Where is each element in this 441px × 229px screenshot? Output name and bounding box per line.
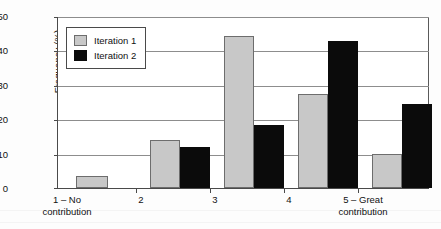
bar-iteration-1 bbox=[224, 36, 254, 188]
y-tick-mark bbox=[54, 120, 58, 121]
bar-group bbox=[140, 17, 210, 188]
bar-iteration-1 bbox=[298, 94, 328, 188]
y-tick-mark bbox=[54, 155, 58, 156]
bar-iteration-2 bbox=[180, 147, 210, 188]
bar-group bbox=[362, 17, 432, 188]
y-tick-label: 10 bbox=[0, 150, 8, 160]
y-tick-label: 40 bbox=[0, 46, 8, 56]
bar-iteration-1 bbox=[372, 154, 402, 188]
x-tick-label-5: 5 – Great contribution bbox=[315, 194, 411, 217]
x-tick-label-line2: contribution bbox=[338, 206, 387, 217]
x-tick-mark bbox=[210, 188, 211, 193]
y-tick-label: 50 bbox=[0, 12, 8, 22]
legend-swatch-icon bbox=[74, 50, 87, 61]
legend-item-iteration-2: Iteration 2 bbox=[74, 48, 136, 63]
bar-iteration-1 bbox=[150, 140, 180, 188]
x-tick-label-line2: contribution bbox=[42, 206, 91, 217]
legend-label: Iteration 2 bbox=[94, 50, 136, 61]
x-tick-label-line1: 3 bbox=[212, 194, 217, 205]
legend-swatch-icon bbox=[74, 35, 87, 46]
legend: Iteration 1 Iteration 2 bbox=[66, 27, 146, 69]
x-tick-mark bbox=[284, 188, 285, 193]
bar-group bbox=[214, 17, 284, 188]
bar-chart-figure: Frequency (%) 50 40 30 20 10 0 bbox=[0, 0, 441, 229]
y-tick-label: 30 bbox=[0, 81, 8, 91]
legend-item-iteration-1: Iteration 1 bbox=[74, 33, 136, 48]
legend-label: Iteration 1 bbox=[94, 35, 136, 46]
x-tick-label-line1: 1 – No bbox=[53, 194, 81, 205]
x-tick-mark bbox=[136, 188, 137, 193]
y-tick-mark bbox=[54, 51, 58, 52]
bar-iteration-2 bbox=[254, 125, 284, 188]
bar-iteration-1 bbox=[76, 176, 108, 188]
y-tick-mark bbox=[54, 17, 58, 18]
bar-iteration-2 bbox=[402, 104, 432, 188]
y-tick-mark bbox=[54, 86, 58, 87]
bar-iteration-2 bbox=[328, 41, 358, 188]
x-tick-mark bbox=[358, 188, 359, 193]
x-tick-label-line1: 5 – Great bbox=[343, 194, 383, 205]
x-tick-label-line1: 2 bbox=[138, 194, 143, 205]
y-tick-label: 0 bbox=[0, 184, 8, 194]
scan-artifact bbox=[0, 222, 441, 223]
y-tick-mark bbox=[54, 188, 58, 189]
y-tick-label: 20 bbox=[0, 115, 8, 125]
bar-group bbox=[288, 17, 358, 188]
x-tick-label-line1: 4 bbox=[286, 194, 291, 205]
scan-artifact bbox=[0, 210, 441, 211]
